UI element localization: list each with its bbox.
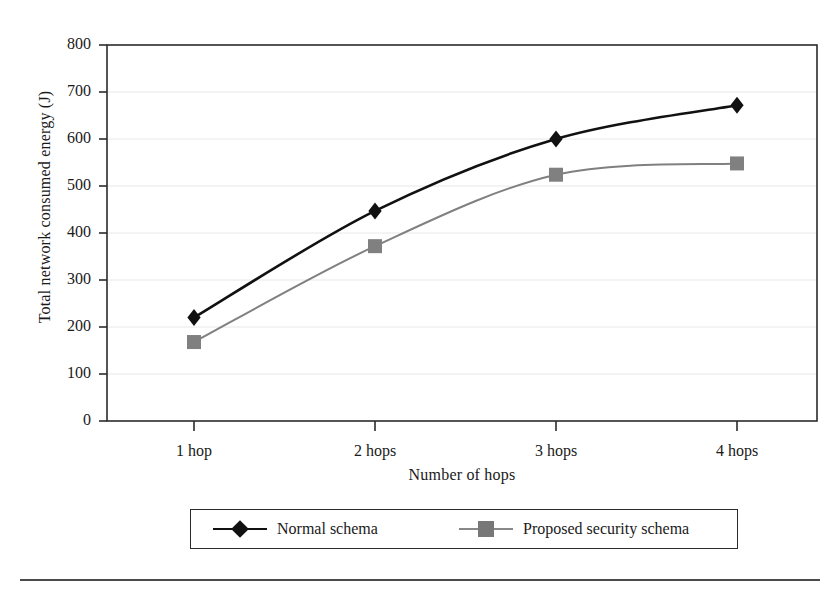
legend-label-proposed-security-schema: Proposed security schema [523, 520, 689, 538]
y-tick-label: 400 [33, 224, 91, 240]
data-point-marker [549, 168, 563, 182]
data-point-marker [368, 202, 381, 219]
series-line-1 [194, 163, 737, 342]
y-tick-marks [99, 45, 107, 421]
y-tick-label: 200 [33, 318, 91, 334]
y-tick-label: 700 [33, 83, 91, 99]
data-point-marker [187, 335, 201, 349]
x-tick-label: 1 hop [134, 443, 254, 459]
legend-item-normal-schema: Normal schema [213, 510, 378, 548]
figure-container: Total network consumed energy (J) Number… [0, 0, 840, 592]
series-lines-group [194, 105, 737, 342]
series-markers-group [187, 97, 744, 349]
y-tick-label: 300 [33, 271, 91, 287]
y-tick-label: 800 [33, 36, 91, 52]
chart-plot-area [0, 0, 840, 592]
y-tick-label: 500 [33, 177, 91, 193]
diamond-marker-icon [213, 521, 267, 537]
x-tick-marks [194, 421, 737, 431]
legend-item-proposed-security-schema: Proposed security schema [459, 510, 689, 548]
data-point-marker [187, 309, 200, 326]
series-line-0 [194, 105, 737, 317]
x-tick-label: 4 hops [677, 443, 797, 459]
square-marker-icon [459, 521, 513, 537]
x-axis-title: Number of hops [107, 466, 817, 484]
data-point-marker [730, 97, 743, 114]
data-point-marker [368, 239, 382, 253]
x-tick-label: 3 hops [496, 443, 616, 459]
y-tick-label: 600 [33, 130, 91, 146]
page-divider-rule [20, 579, 820, 581]
data-point-marker [730, 156, 744, 170]
y-tick-label: 100 [33, 365, 91, 381]
legend-label-normal-schema: Normal schema [277, 520, 378, 538]
y-tick-label: 0 [33, 412, 91, 428]
x-tick-label: 2 hops [315, 443, 435, 459]
data-point-marker [549, 131, 562, 148]
chart-legend: Normal schema Proposed security schema [190, 509, 738, 549]
